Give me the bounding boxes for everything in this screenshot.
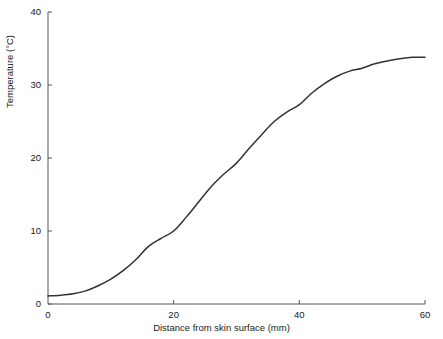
y-tick-label: 0 bbox=[15, 299, 41, 309]
x-tick-label: 60 bbox=[410, 310, 440, 320]
y-axis-ticks bbox=[48, 12, 52, 304]
x-axis-title: Distance from skin surface (mm) bbox=[0, 322, 443, 333]
y-tick-label: 10 bbox=[15, 226, 41, 236]
y-tick-label: 20 bbox=[15, 153, 41, 163]
plot-area bbox=[0, 0, 443, 339]
y-axis-title: Temperature (°C) bbox=[4, 35, 15, 108]
x-tick-label: 20 bbox=[159, 310, 189, 320]
temperature-profile-chart: 010203040 0204060 Distance from skin sur… bbox=[0, 0, 443, 339]
x-tick-label: 0 bbox=[33, 310, 63, 320]
y-tick-label: 40 bbox=[15, 7, 41, 17]
temperature-curve bbox=[48, 57, 425, 296]
x-tick-label: 40 bbox=[284, 310, 314, 320]
x-axis-ticks bbox=[174, 300, 425, 304]
y-tick-label: 30 bbox=[15, 80, 41, 90]
